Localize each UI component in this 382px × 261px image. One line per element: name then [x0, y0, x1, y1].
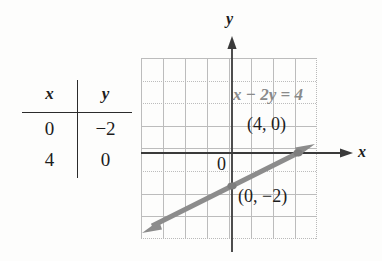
plotted-point-0-minus2 — [227, 183, 236, 190]
x-axis-label: x — [358, 143, 366, 161]
table-cell-y-row1: −2 — [78, 118, 133, 140]
figure-canvas: x y 0 −2 4 0 y x 0 — [0, 0, 382, 261]
value-table: x y 0 −2 4 0 — [22, 78, 132, 178]
point-label-0-minus2: (0, −2) — [238, 186, 287, 207]
plotted-point-4-0 — [293, 150, 302, 157]
arrow-right-icon — [340, 148, 353, 157]
table-cell-y-row2: 0 — [78, 149, 133, 171]
table-cell-x-row2: 4 — [22, 149, 77, 171]
point-label-4-0: (4, 0) — [247, 114, 286, 135]
table-header-x: x — [22, 84, 77, 104]
table-horizontal-rule — [22, 112, 132, 113]
arrow-up-icon — [227, 36, 236, 49]
origin-label: 0 — [217, 154, 226, 175]
equation-label: x − 2y = 4 — [233, 85, 303, 105]
table-cell-x-row1: 0 — [22, 118, 77, 140]
coordinate-graph: y x 0 x − 2y = 4 (4, 0) (0, −2) — [130, 0, 382, 261]
table-header-y: y — [78, 84, 133, 104]
y-axis-label: y — [226, 10, 233, 28]
line-arrow-lower-left-icon — [142, 221, 162, 234]
